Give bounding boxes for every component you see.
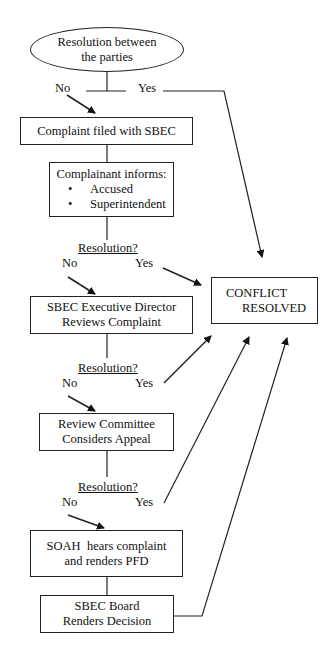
end-line-2: RESOLVED — [226, 301, 317, 316]
start-yes-label: Yes — [138, 81, 156, 95]
decision-2-no: No — [62, 376, 77, 390]
step-exec-director-line-1: SBEC Executive Director — [31, 300, 192, 315]
start-line-1: Resolution between — [31, 35, 183, 50]
start-node-resolution-between-parties: Resolution between the parties — [30, 27, 184, 72]
step-board-line-1: SBEC Board — [41, 599, 173, 614]
step-complainant-informs: Complainant informs: Accused Superintend… — [49, 162, 174, 217]
step-board-renders-decision: SBEC Board Renders Decision — [40, 595, 174, 633]
decision-1-no: No — [62, 256, 77, 270]
decision-1-yes: Yes — [135, 256, 153, 270]
step-review-committee-line-2: Considers Appeal — [40, 432, 173, 447]
bullet-accused: Accused — [62, 182, 173, 197]
step-complainant-informs-title: Complainant informs: — [50, 167, 173, 182]
start-no-label: No — [55, 81, 70, 95]
step-soah-line-1: SOAH hears complaint — [31, 539, 182, 554]
step-exec-director-line-2: Reviews Complaint — [31, 315, 192, 330]
end-node-conflict-resolved: CONFLICT RESOLVED — [211, 277, 318, 324]
decision-3-no: No — [62, 495, 77, 509]
bullet-superintendent: Superintendent — [62, 197, 173, 212]
decision-2-yes: Yes — [135, 376, 153, 390]
step-board-line-2: Renders Decision — [41, 614, 173, 629]
step-review-committee: Review Committee Considers Appeal — [39, 413, 174, 451]
decision-3-yes: Yes — [135, 495, 153, 509]
step-complaint-filed-text: Complaint filed with SBEC — [21, 124, 192, 139]
step-exec-director-reviews: SBEC Executive Director Reviews Complain… — [30, 296, 193, 334]
decision-1-question: Resolution? — [78, 241, 138, 255]
step-soah-line-2: and renders PFD — [31, 554, 182, 569]
step-complaint-filed: Complaint filed with SBEC — [20, 117, 193, 145]
end-line-1: CONFLICT — [226, 286, 317, 301]
decision-2-question: Resolution? — [78, 361, 138, 375]
start-line-2: the parties — [31, 50, 183, 65]
decision-3-question: Resolution? — [78, 480, 138, 494]
step-soah-hears-complaint: SOAH hears complaint and renders PFD — [30, 530, 183, 577]
step-review-committee-line-1: Review Committee — [40, 417, 173, 432]
